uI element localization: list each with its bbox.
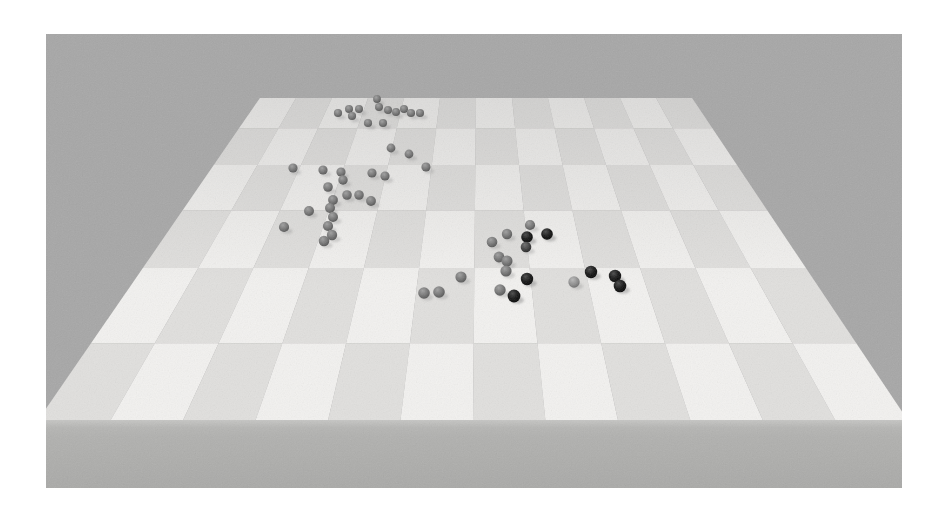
scene-canvas	[46, 34, 902, 488]
film-grain-overlay	[46, 34, 902, 488]
simulation-render-figure	[46, 34, 902, 488]
figure-page	[0, 0, 942, 517]
